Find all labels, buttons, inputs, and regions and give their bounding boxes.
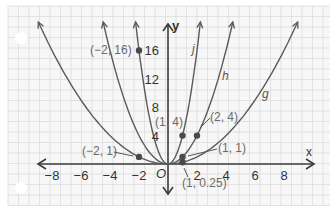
origin-label: O: [156, 166, 166, 181]
data-point: [136, 47, 142, 53]
point-label-1-1: (1, 1): [218, 141, 246, 155]
x-axis-label: x: [306, 145, 312, 159]
x-tick-label: −4: [103, 168, 118, 183]
graph-paper: −8−6−4−22468481216 y x O j h g (−2, 16) …: [0, 0, 336, 214]
y-tick-label: 16: [145, 43, 159, 58]
x-tick-label: −6: [74, 168, 89, 183]
point-label-2-4: (2, 4): [210, 110, 238, 124]
punch-hole: [15, 32, 27, 44]
punch-hole: [15, 182, 27, 194]
data-point: [136, 154, 142, 160]
x-tick-label: 8: [280, 168, 287, 183]
y-axis-label: y: [172, 18, 180, 33]
x-tick-label: −2: [132, 168, 147, 183]
data-point: [179, 132, 185, 138]
point-label-neg2-1: (−2, 1): [82, 144, 117, 158]
x-tick-label: −8: [45, 168, 60, 183]
curve-label-h: h: [222, 69, 229, 83]
y-tick-label: 8: [152, 100, 159, 115]
data-point: [194, 132, 200, 138]
point-label-1-0.25: (1, 0.25): [182, 176, 227, 190]
x-tick-label: 6: [251, 168, 258, 183]
data-point: [179, 159, 185, 165]
point-label-neg2-16: (−2, 16): [90, 43, 132, 57]
curve-label-g: g: [262, 87, 269, 101]
y-tick-label: 4: [152, 129, 159, 144]
point-label-1-4: (1, 4): [155, 115, 183, 129]
y-tick-label: 12: [145, 72, 159, 87]
